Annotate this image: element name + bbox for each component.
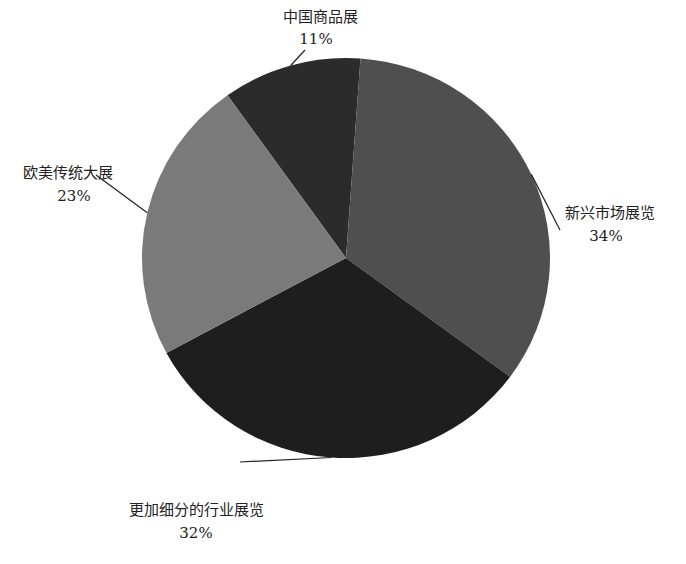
pct-emerging-markets: 34% [589, 227, 622, 245]
label-western-traditional: 欧美传统大展 [23, 164, 113, 182]
label-emerging-markets: 新兴市场展览 [565, 204, 655, 222]
label-china-goods: 中国商品展 [283, 8, 358, 26]
label-niche-industry: 更加细分的行业展览 [129, 501, 264, 519]
pct-china-goods: 11% [299, 30, 332, 48]
leader-line-niche-industry [240, 457, 331, 462]
pct-western-traditional: 23% [57, 187, 90, 205]
pct-niche-industry: 32% [179, 524, 212, 542]
pie-chart: 中国商品展 11% 新兴市场展览 34% 更加细分的行业展览 32% 欧美传统大… [0, 0, 686, 564]
